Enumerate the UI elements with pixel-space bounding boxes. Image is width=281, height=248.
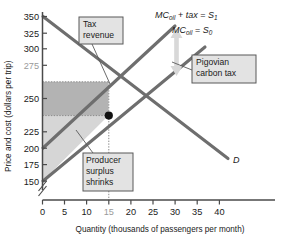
pigovian-callout-line1: Pigovian bbox=[196, 57, 229, 67]
equilibrium-dot bbox=[105, 112, 113, 120]
producer-surplus-callout-line1: Producer bbox=[86, 155, 121, 165]
x-axis-title: Quantity (thousands of passengers per mo… bbox=[76, 225, 245, 234]
x-tick-15: 15 bbox=[104, 207, 114, 217]
producer-surplus-callout-line3: shrinks bbox=[86, 177, 113, 187]
pigovian-carbon-tax-callout: Pigovian carbon tax bbox=[172, 55, 256, 83]
y-tick-325: 325 bbox=[24, 29, 39, 39]
label-demand: D bbox=[233, 155, 240, 165]
svg-text:MCoil = S0: MCoil = S0 bbox=[172, 25, 213, 36]
pigovian-callout-line2: carbon tax bbox=[196, 68, 237, 78]
svg-text:MCoil + tax = S1: MCoil + tax = S1 bbox=[155, 10, 218, 21]
pigovian-carbon-tax-chart: 350 325 300 275 250 225 200 175 150 0 5 … bbox=[0, 0, 281, 248]
x-tick-5: 5 bbox=[62, 207, 67, 217]
y-tick-275: 275 bbox=[24, 61, 39, 71]
label-supply-no-tax: MCoil = S0 bbox=[172, 25, 213, 36]
x-tick-25: 25 bbox=[148, 207, 158, 217]
y-tick-200: 200 bbox=[24, 144, 39, 154]
x-tick-35: 35 bbox=[192, 207, 202, 217]
x-tick-40: 40 bbox=[214, 207, 224, 217]
label-supply-with-tax: MCoil + tax = S1 bbox=[155, 10, 218, 21]
x-tick-30: 30 bbox=[170, 207, 180, 217]
y-tick-175: 175 bbox=[24, 160, 39, 170]
y-tick-225: 225 bbox=[24, 127, 39, 137]
x-tick-10: 10 bbox=[81, 207, 91, 217]
y-axis-title: Price and cost (dollars per trip) bbox=[4, 60, 13, 172]
y-tick-labels: 350 325 300 275 250 225 200 175 150 bbox=[24, 12, 39, 187]
y-tick-350: 350 bbox=[24, 12, 39, 22]
tax-revenue-callout-line2: revenue bbox=[83, 30, 114, 40]
tax-revenue-callout-line1: Tax bbox=[83, 19, 97, 29]
tax-wedge-arrow bbox=[171, 28, 183, 76]
y-tick-150: 150 bbox=[24, 177, 39, 187]
chart-canvas: 350 325 300 275 250 225 200 175 150 0 5 … bbox=[0, 0, 281, 248]
x-tick-20: 20 bbox=[126, 207, 136, 217]
y-tick-300: 300 bbox=[24, 44, 39, 54]
x-tick-labels: 0 5 10 15 20 25 30 35 40 bbox=[40, 207, 225, 217]
demand-curve-label: D bbox=[233, 155, 240, 165]
producer-surplus-callout-line2: surplus bbox=[86, 166, 114, 176]
x-tick-0: 0 bbox=[40, 207, 45, 217]
y-tick-250: 250 bbox=[24, 94, 39, 104]
